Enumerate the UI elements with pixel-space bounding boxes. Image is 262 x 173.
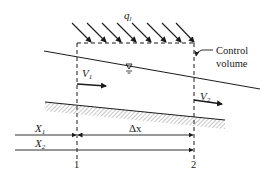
control-volume-leader [196,50,213,56]
control-volume-label-line1: Control [216,45,248,56]
water-surface-symbol [126,64,132,73]
velocity-1-arrow [77,84,106,86]
x2-label: X2 [34,137,46,151]
control-volume-boundary [77,43,194,160]
lateral-inflow-label: ql [124,9,132,23]
section-2-label: 2 [191,159,196,170]
x1-label: X1 [34,122,45,136]
delta-x-label: Δx [129,122,142,134]
control-volume-label-line2: volume [216,58,248,69]
water-surface-line [44,51,260,89]
lateral-inflow-arrows [72,23,194,42]
velocity-1-label: V1 [82,67,92,81]
control-volume-diagram: ql Control volume V1 V2 X1 X [0,0,262,173]
section-1-label: 1 [74,159,79,170]
